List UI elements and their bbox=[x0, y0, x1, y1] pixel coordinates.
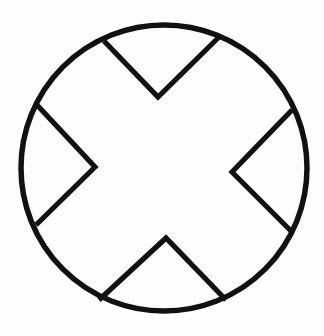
background-rect bbox=[0, 0, 324, 336]
icon-canvas: Circle with inscribed X cross bbox=[0, 0, 324, 336]
circle-x-cross-figure bbox=[0, 0, 324, 336]
